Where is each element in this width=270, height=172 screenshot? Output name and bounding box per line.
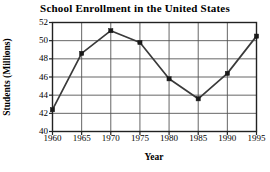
data-series-line <box>53 31 257 110</box>
data-point-marker <box>167 77 171 81</box>
data-point-marker <box>138 40 142 44</box>
data-point-marker <box>225 71 229 75</box>
data-point-marker <box>254 34 258 38</box>
chart-container: School Enrollment in the United States S… <box>0 0 270 172</box>
data-point-marker <box>50 108 54 112</box>
plot-area <box>0 0 270 172</box>
series-line-school-enrollment <box>53 31 257 110</box>
data-point-marker <box>80 51 84 55</box>
grid-lines <box>53 23 257 132</box>
data-point-marker <box>109 29 113 33</box>
axis-tick-marks <box>49 23 257 136</box>
data-point-marker <box>196 97 200 101</box>
